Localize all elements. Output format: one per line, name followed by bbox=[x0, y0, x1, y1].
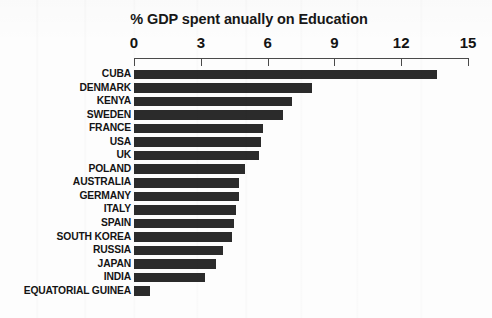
x-axis-tick-mark bbox=[334, 58, 335, 66]
bar-row: KENYA bbox=[0, 95, 492, 109]
x-axis-tick-label: 3 bbox=[197, 34, 205, 51]
bar bbox=[134, 164, 245, 174]
bar-category-label: KENYA bbox=[0, 95, 131, 106]
bar-category-label: FRANCE bbox=[0, 122, 131, 133]
bar-category-label: JAPAN bbox=[0, 258, 131, 269]
bar bbox=[134, 273, 205, 283]
bar bbox=[134, 286, 150, 296]
bar-category-label: SWEDEN bbox=[0, 109, 131, 120]
plot-area: CUBADENMARKKENYASWEDENFRANCEUSAUKPOLANDA… bbox=[0, 68, 492, 314]
bar-row: SPAIN bbox=[0, 217, 492, 231]
bar-row: POLAND bbox=[0, 163, 492, 177]
bar-row: CUBA bbox=[0, 68, 492, 82]
bar-category-label: SOUTH KOREA bbox=[0, 231, 131, 242]
bar bbox=[134, 110, 283, 120]
bar-row: AUSTRALIA bbox=[0, 176, 492, 190]
bar-row: JAPAN bbox=[0, 258, 492, 272]
bar-category-label: DENMARK bbox=[0, 82, 131, 93]
bar-category-label: UK bbox=[0, 149, 131, 160]
bar-row: ITALY bbox=[0, 203, 492, 217]
bar bbox=[134, 178, 239, 188]
x-axis-tick-label: 6 bbox=[263, 34, 271, 51]
bar-row: GERMANY bbox=[0, 190, 492, 204]
bar bbox=[134, 219, 234, 229]
bar-row: SOUTH KOREA bbox=[0, 231, 492, 245]
bar-category-label: ITALY bbox=[0, 203, 131, 214]
bar-category-label: GERMANY bbox=[0, 190, 131, 201]
bar-row: USA bbox=[0, 136, 492, 150]
bar-category-label: AUSTRALIA bbox=[0, 176, 131, 187]
bar bbox=[134, 70, 437, 80]
bar bbox=[134, 246, 223, 256]
x-axis-line bbox=[134, 58, 468, 59]
x-axis-tick-label: 12 bbox=[393, 34, 410, 51]
x-axis-tick-label: 15 bbox=[460, 34, 477, 51]
x-axis-tick-mark bbox=[201, 58, 202, 66]
bar-row: SWEDEN bbox=[0, 109, 492, 123]
bar bbox=[134, 97, 292, 107]
bar-row: EQUATORIAL GUINEA bbox=[0, 285, 492, 299]
x-axis-tick-mark bbox=[268, 58, 269, 66]
bar-category-label: RUSSIA bbox=[0, 244, 131, 255]
bar-category-label: CUBA bbox=[0, 68, 131, 79]
x-axis-tick-mark bbox=[468, 58, 469, 66]
bar-category-label: POLAND bbox=[0, 163, 131, 174]
bar-category-label: INDIA bbox=[0, 271, 131, 282]
education-gdp-bar-chart: % GDP spent anually on Education 0369121… bbox=[0, 0, 492, 318]
bar bbox=[134, 232, 232, 242]
bar-category-label: USA bbox=[0, 136, 131, 147]
bar bbox=[134, 259, 216, 269]
bar-row: INDIA bbox=[0, 271, 492, 285]
x-axis-tick-mark bbox=[134, 58, 135, 66]
bar-category-label: SPAIN bbox=[0, 217, 131, 228]
bar-row: DENMARK bbox=[0, 82, 492, 96]
bar-row: RUSSIA bbox=[0, 244, 492, 258]
bar bbox=[134, 83, 312, 93]
bar bbox=[134, 205, 236, 215]
bar bbox=[134, 192, 239, 202]
bar bbox=[134, 151, 259, 161]
x-axis-tick-mark bbox=[401, 58, 402, 66]
x-axis-tick-label: 9 bbox=[330, 34, 338, 51]
bar bbox=[134, 124, 263, 134]
bar-category-label: EQUATORIAL GUINEA bbox=[0, 285, 131, 296]
bar-row: UK bbox=[0, 149, 492, 163]
bar bbox=[134, 137, 261, 147]
bar-row: FRANCE bbox=[0, 122, 492, 136]
x-axis-tick-label: 0 bbox=[130, 34, 138, 51]
